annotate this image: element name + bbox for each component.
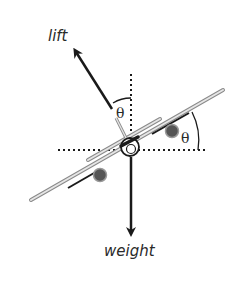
lift-label: lift bbox=[48, 29, 68, 44]
angle-arc-top bbox=[113, 98, 131, 103]
weight-label: weight bbox=[104, 244, 155, 259]
theta-top-label: θ bbox=[116, 105, 124, 121]
engine-right bbox=[166, 125, 179, 138]
fuselage bbox=[121, 137, 139, 156]
engine-left bbox=[94, 169, 107, 182]
theta-right-label: θ bbox=[181, 130, 189, 146]
banked-airplane-diagram: θ θ lift weight bbox=[0, 0, 233, 285]
angle-arc-right bbox=[192, 112, 199, 150]
lift-arrow bbox=[76, 52, 112, 109]
